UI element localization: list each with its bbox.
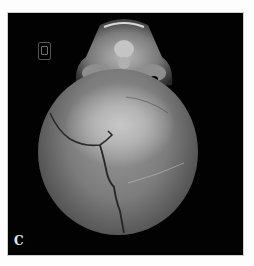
cranial-sutures	[8, 13, 243, 255]
panel-label: C	[14, 234, 24, 248]
ct-image-panel: C	[8, 13, 243, 255]
